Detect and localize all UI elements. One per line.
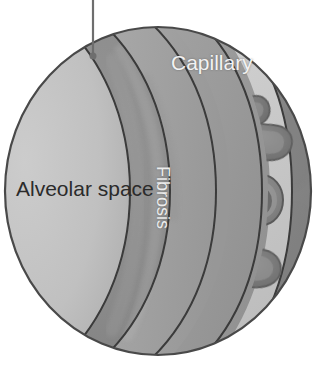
alveolus-sphere (0, 0, 321, 371)
figure-canvas (0, 0, 321, 371)
alveolus-fibrosis-figure: Alveolar space Capillary Fibrosis (0, 0, 321, 371)
leader-dot (90, 53, 97, 60)
